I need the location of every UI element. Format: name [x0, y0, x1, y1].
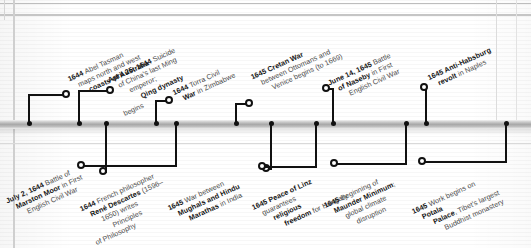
axis-dot [424, 121, 429, 126]
leader-elbow [334, 163, 407, 165]
leader-ring-marker [420, 83, 428, 91]
leader-elbow [422, 161, 507, 163]
timeline-axis-shadow [0, 129, 531, 135]
axis-dot [331, 121, 336, 126]
axis-dot [404, 121, 409, 126]
event-label-anti-habsburg-revolt-naples: 1645 Anti-Habsburgrevolt in Naples [426, 45, 496, 90]
leader-ring-marker [245, 99, 253, 107]
axis-dot [27, 121, 32, 126]
page-rule-left-2 [4, 0, 5, 20]
event-label-mughals-marathas-india: 1645 War betweenMughals and HinduMaratha… [166, 173, 245, 229]
leader-stem [270, 125, 272, 169]
event-label-battle-of-marston-moor: July 2, 1644 Battle ofMarston Moor in Fi… [4, 164, 87, 222]
leader-elbow [28, 94, 66, 96]
page-rule-top-1 [0, 3, 531, 4]
axis-dot [174, 121, 179, 126]
timeline-infographic: 1644 Abel Tasmanmaps north and westcoast… [0, 0, 531, 248]
leader-stem [175, 125, 177, 166]
leader-ring-marker [99, 167, 107, 175]
axis-dot [234, 121, 239, 126]
page-rule-right [496, 0, 497, 126]
leader-stem [315, 125, 317, 167]
axis-dot [154, 121, 159, 126]
leader-ring-marker [258, 162, 266, 170]
axis-dot [314, 121, 319, 126]
leader-stem [405, 125, 407, 164]
axis-dot [104, 121, 109, 126]
axis-dot [504, 121, 509, 126]
event-label-descartes-principles-philosophy: 1644 French philosopherRené Descartes (1… [78, 169, 176, 247]
leader-elbow [81, 165, 177, 167]
leader-stem [425, 88, 427, 123]
leader-elbow [262, 166, 317, 168]
leader-stem [505, 125, 507, 162]
event-label-potala-palace-tibet: 1645 Work begins on PotalaPalace, Tibet'… [410, 171, 505, 241]
axis-dot [269, 121, 274, 126]
leader-ring-marker [418, 157, 426, 165]
page-rule-top-2 [0, 14, 531, 16]
leader-ring-marker [62, 90, 70, 98]
axis-dot [77, 121, 82, 126]
page-rule-right-2 [516, 0, 517, 126]
leader-stem [28, 95, 30, 123]
page-rule-bottom [0, 143, 531, 144]
